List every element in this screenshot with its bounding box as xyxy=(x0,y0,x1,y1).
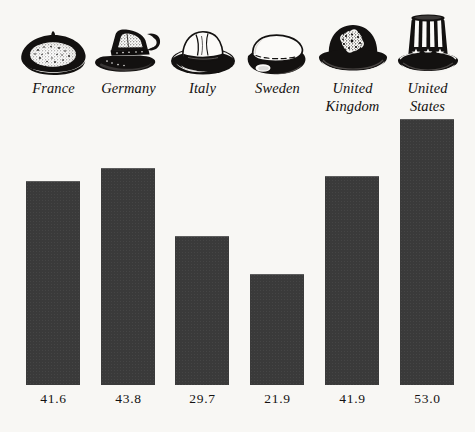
chart-column-france: France 41.6 xyxy=(14,0,93,432)
chart-column-germany: Germany 43.8 xyxy=(89,0,168,432)
bar-united-kingdom xyxy=(325,176,379,385)
fedora-hat-icon xyxy=(163,6,242,78)
country-label-line1: France xyxy=(32,80,74,96)
bar-france xyxy=(26,181,80,385)
value-label-germany: 43.8 xyxy=(89,391,168,407)
country-label-line2: Kingdom xyxy=(326,98,380,114)
country-label-united-kingdom: United Kingdom xyxy=(309,80,396,115)
bar-italy xyxy=(175,236,229,385)
country-label-united-states: United States xyxy=(384,80,471,115)
country-label-italy: Italy xyxy=(159,80,246,98)
bar-germany xyxy=(101,168,155,385)
bowler-hat-icon xyxy=(313,6,392,78)
country-label-line1: Germany xyxy=(101,80,156,96)
bar-united-states xyxy=(400,119,454,385)
value-label-united-kingdom: 41.9 xyxy=(313,391,392,407)
chart-column-italy: Italy 29.7 xyxy=(163,0,242,432)
swedish-cap-icon xyxy=(238,6,317,78)
country-label-line1: United xyxy=(332,80,372,96)
chart-column-united-states: United States 53.0 xyxy=(388,0,467,432)
country-label-line1: United xyxy=(407,80,447,96)
value-label-united-states: 53.0 xyxy=(388,391,467,407)
uncle-sam-top-hat-icon xyxy=(388,6,467,78)
bar-sweden xyxy=(250,274,304,385)
value-label-sweden: 21.9 xyxy=(238,391,317,407)
country-label-line1: Italy xyxy=(189,80,216,96)
country-label-france: France xyxy=(10,80,97,98)
chart-column-sweden: Sweden 21.9 xyxy=(238,0,317,432)
country-label-line2: States xyxy=(410,98,445,114)
bar-chart-figure: France 41.6 xyxy=(0,0,475,432)
country-label-sweden: Sweden xyxy=(234,80,321,98)
tyrolean-hat-icon xyxy=(89,6,168,78)
chart-column-united-kingdom: United Kingdom 41.9 xyxy=(313,0,392,432)
value-label-france: 41.6 xyxy=(14,391,93,407)
beret-hat-icon xyxy=(14,6,93,78)
value-label-italy: 29.7 xyxy=(163,391,242,407)
country-label-line1: Sweden xyxy=(255,80,300,96)
